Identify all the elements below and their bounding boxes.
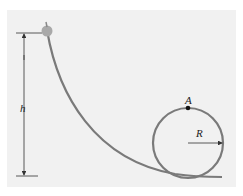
height-label: h — [20, 102, 26, 114]
point-a-marker — [186, 106, 191, 111]
point-a-label: A — [185, 94, 192, 106]
radius-label: R — [196, 127, 203, 139]
loop-diagram — [0, 0, 243, 196]
ball — [42, 26, 53, 37]
ball-stem — [46, 22, 47, 27]
track-curve — [47, 30, 222, 177]
